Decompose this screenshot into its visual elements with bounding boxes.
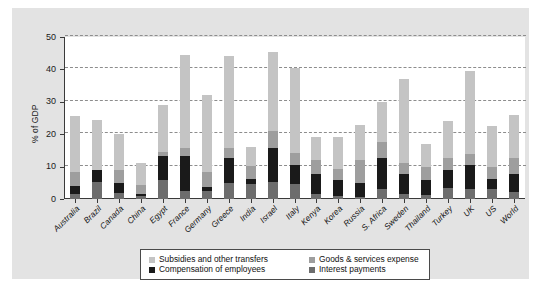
stacked-bar[interactable]: [399, 79, 409, 199]
bar-slot: [481, 37, 503, 199]
stacked-bar[interactable]: [268, 52, 278, 199]
x-label-slot: China: [130, 202, 152, 246]
stacked-bar[interactable]: [487, 126, 497, 199]
stacked-bar[interactable]: [180, 55, 190, 199]
bar-segment: [224, 56, 234, 147]
bar-slot: [305, 37, 327, 199]
gridline: [65, 35, 526, 36]
bar-segment: [114, 134, 124, 170]
legend-swatch-icon: [309, 267, 315, 273]
bar-slot: [174, 37, 196, 199]
bar-segment: [114, 183, 124, 193]
bar-segment: [180, 191, 190, 199]
bar-slot: [459, 37, 481, 199]
y-tick-label: 50: [22, 33, 56, 42]
bar-slot: [371, 37, 393, 199]
bar-segment: [158, 180, 168, 199]
y-tick-label: 30: [22, 97, 56, 106]
bar-segment: [421, 167, 431, 180]
y-tick-mark: [60, 199, 64, 200]
y-tick-mark: [60, 167, 64, 168]
bar-segment: [443, 158, 453, 170]
x-tick-label: India: [238, 204, 257, 223]
bar-slot: [218, 37, 240, 199]
stacked-bar[interactable]: [136, 163, 146, 199]
stacked-bar[interactable]: [443, 121, 453, 199]
x-label-slot: Israel: [262, 202, 284, 246]
bar-segment: [158, 156, 168, 179]
y-tick-label: 10: [22, 162, 56, 171]
bar-segment: [70, 116, 80, 172]
bar-slot: [284, 37, 306, 199]
bar-segment: [487, 179, 497, 189]
bar-slot: [393, 37, 415, 199]
bar-segment: [180, 55, 190, 148]
stacked-bar[interactable]: [224, 56, 234, 199]
stacked-bar[interactable]: [114, 134, 124, 199]
stacked-bar[interactable]: [246, 147, 256, 199]
bar-segment: [487, 167, 497, 179]
bar-segment: [70, 186, 80, 194]
chart-screenshot: % of GDP 01020304050 AustraliaBrazilCana…: [0, 0, 541, 290]
legend-swatch-icon: [309, 257, 315, 263]
bar-segment: [443, 188, 453, 199]
bar-segment: [333, 169, 343, 181]
stacked-bar[interactable]: [290, 68, 300, 199]
bar-segment: [224, 148, 234, 158]
bars-container: [64, 37, 525, 199]
bar-segment: [246, 147, 256, 166]
stacked-bar[interactable]: [355, 125, 365, 199]
bar-segment: [246, 166, 256, 179]
legend-row: Compensation of employees Interest payme…: [149, 265, 423, 274]
stacked-bar[interactable]: [158, 105, 168, 199]
chart-legend: Subsidies and other transfers Goods & se…: [140, 249, 430, 280]
bar-segment: [311, 137, 321, 160]
stacked-bar[interactable]: [311, 137, 321, 199]
bar-segment: [399, 174, 409, 194]
stacked-bar[interactable]: [421, 144, 431, 199]
bar-slot: [108, 37, 130, 199]
x-axis-labels: AustraliaBrazilCanadaChinaEgyptFranceGer…: [64, 202, 525, 246]
bar-segment: [509, 158, 519, 174]
bar-slot: [262, 37, 284, 199]
bar-segment: [465, 154, 475, 164]
stacked-bar[interactable]: [70, 116, 80, 199]
bar-segment: [443, 170, 453, 188]
x-tick-label: UK: [462, 204, 477, 219]
bar-segment: [92, 182, 102, 199]
y-tick-mark: [60, 69, 64, 70]
bar-segment: [202, 95, 212, 171]
bar-segment: [465, 165, 475, 190]
bar-segment: [290, 68, 300, 153]
bar-segment: [377, 142, 387, 158]
bar-segment: [311, 174, 321, 194]
bar-slot: [503, 37, 525, 199]
bar-segment: [421, 144, 431, 167]
stacked-bar[interactable]: [92, 120, 102, 199]
bar-slot: [196, 37, 218, 199]
bar-segment: [509, 174, 519, 191]
x-label-slot: Australia: [64, 202, 86, 246]
stacked-bar[interactable]: [465, 71, 475, 199]
bar-segment: [136, 185, 146, 195]
bar-segment: [268, 52, 278, 131]
bar-segment: [377, 158, 387, 189]
bar-segment: [224, 183, 234, 199]
stacked-bar[interactable]: [377, 102, 387, 199]
bar-segment: [377, 102, 387, 142]
legend-item-interest-payments: Interest payments: [309, 265, 386, 274]
legend-label: Goods & services expense: [319, 255, 419, 264]
x-label-slot: Canada: [108, 202, 130, 246]
x-tick-label: US: [484, 204, 499, 219]
bar-segment: [224, 158, 234, 183]
x-label-slot: Kenya: [305, 202, 327, 246]
stacked-bar[interactable]: [333, 137, 343, 199]
stacked-bar[interactable]: [202, 95, 212, 199]
y-tick-label: 40: [22, 65, 56, 74]
bar-slot: [64, 37, 86, 199]
bar-segment: [290, 153, 300, 165]
y-tick-label: 0: [22, 195, 56, 204]
stacked-bar[interactable]: [509, 115, 519, 199]
bar-slot: [437, 37, 459, 199]
legend-swatch-icon: [149, 267, 155, 273]
